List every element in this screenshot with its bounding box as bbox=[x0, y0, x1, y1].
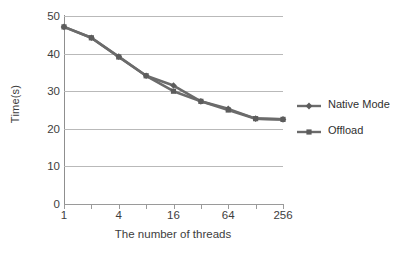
data-point bbox=[144, 73, 149, 78]
data-point bbox=[280, 117, 285, 122]
legend-label: Native Mode bbox=[328, 98, 390, 110]
chart-legend: Native ModeOffload bbox=[296, 94, 400, 146]
diamond-marker-icon bbox=[296, 98, 322, 110]
data-point bbox=[198, 99, 203, 104]
x-tick-label-16: 16 bbox=[167, 209, 180, 221]
legend-label: Offload bbox=[328, 124, 363, 136]
data-point bbox=[116, 54, 121, 59]
plot-area bbox=[64, 16, 283, 204]
legend-item-offload[interactable]: Offload bbox=[296, 120, 400, 139]
y-tick-label-30: 30 bbox=[47, 85, 60, 97]
y-tick-label-0: 0 bbox=[54, 198, 60, 210]
y-axis-title: Time(s) bbox=[2, 0, 28, 208]
x-tick-label-4: 4 bbox=[116, 209, 122, 221]
series-line bbox=[64, 27, 283, 120]
line-chart: Time(s) 01020304050 141664256 The number… bbox=[0, 0, 401, 261]
legend-item-native-mode[interactable]: Native Mode bbox=[296, 94, 400, 113]
data-point bbox=[89, 35, 94, 40]
x-tick-label-64: 64 bbox=[222, 209, 235, 221]
y-axis-title-label: Time(s) bbox=[9, 85, 21, 123]
data-point bbox=[253, 116, 258, 121]
y-tick-label-40: 40 bbox=[47, 48, 60, 60]
y-tick-label-10: 10 bbox=[47, 160, 60, 172]
data-point bbox=[61, 24, 66, 29]
x-axis-tick-labels: 141664256 bbox=[64, 209, 283, 225]
data-point bbox=[171, 89, 176, 94]
x-tick-label-256: 256 bbox=[273, 209, 292, 221]
x-axis-title-label: The number of threads bbox=[115, 228, 231, 240]
series-layer bbox=[64, 16, 283, 204]
y-axis-tick-labels: 01020304050 bbox=[26, 16, 60, 204]
y-tick-label-50: 50 bbox=[47, 10, 60, 22]
data-point bbox=[226, 107, 231, 112]
x-tick-label-1: 1 bbox=[61, 209, 67, 221]
y-tick-label-20: 20 bbox=[47, 123, 60, 135]
square-marker-icon bbox=[296, 124, 322, 136]
x-axis-title: The number of threads bbox=[40, 228, 306, 240]
series-offload bbox=[61, 24, 285, 122]
